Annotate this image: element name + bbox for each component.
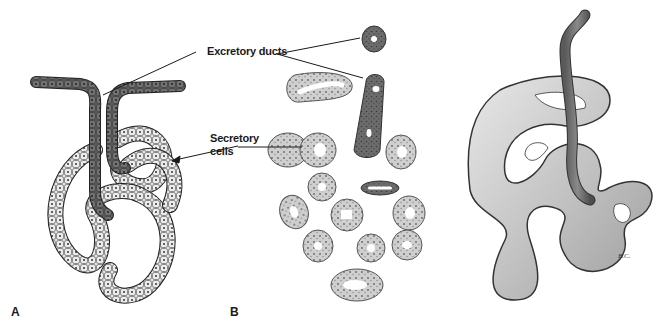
panel-a-illustration [36,82,180,296]
panel-a-label: A [11,305,20,319]
panel-b-label: B [230,305,239,319]
secretory-cells-label-line1: Secretory [210,132,259,145]
sweat-gland-figure: Excretory ducts Secretory cells A B B.C. [0,0,666,327]
artist-signature: B.C. [618,252,630,260]
figure-artwork [0,0,666,327]
panel-b-illustration [268,26,425,301]
excretory-ducts-label: Excretory ducts [207,45,287,58]
secretory-cells-label-line2: cells [210,145,233,158]
